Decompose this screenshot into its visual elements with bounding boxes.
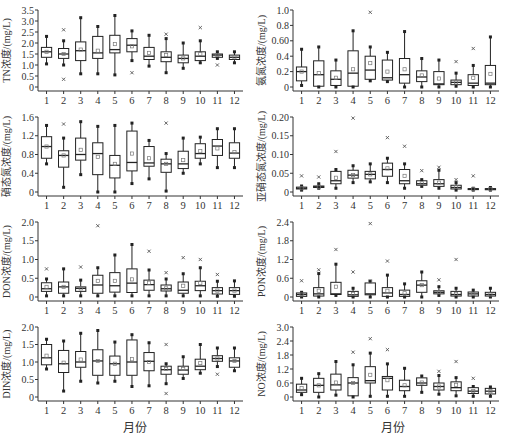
svg-text:0.05: 0.05	[272, 168, 290, 179]
svg-text:11: 11	[212, 405, 222, 416]
svg-text:1.2: 1.2	[22, 130, 35, 141]
svg-text:5: 5	[368, 95, 373, 106]
svg-text:7: 7	[402, 95, 407, 106]
svg-text:10: 10	[195, 95, 206, 106]
svg-text:4: 4	[95, 200, 101, 211]
svg-text:9: 9	[436, 200, 441, 211]
svg-text:3: 3	[78, 200, 83, 211]
svg-text:12: 12	[229, 305, 240, 316]
panel-nitrate-nitrogen: 00.40.81.21.6硝态氮浓度/(mg/L)123456789101112	[0, 107, 255, 212]
svg-text:4: 4	[95, 305, 101, 316]
svg-text:12: 12	[485, 200, 496, 211]
svg-text:1: 1	[44, 305, 49, 316]
svg-text:6: 6	[385, 95, 390, 106]
svg-text:12: 12	[229, 405, 240, 416]
svg-text:8: 8	[164, 405, 169, 416]
svg-text:2.4: 2.4	[277, 217, 290, 228]
svg-text:8: 8	[419, 405, 424, 416]
svg-text:6: 6	[129, 405, 134, 416]
svg-text:1.2: 1.2	[277, 254, 290, 265]
svg-text:10: 10	[451, 305, 462, 316]
svg-text:1: 1	[299, 405, 304, 416]
svg-text:10: 10	[451, 405, 462, 416]
svg-text:1: 1	[299, 95, 304, 106]
panel-don: 00.51.01.52.0DON浓度/(mg/L)123456789101112	[0, 212, 255, 317]
svg-text:6: 6	[129, 305, 134, 316]
svg-text:9: 9	[436, 95, 441, 106]
svg-text:8: 8	[164, 200, 169, 211]
svg-text:3: 3	[78, 95, 83, 106]
svg-text:3: 3	[78, 405, 83, 416]
svg-text:0.8: 0.8	[22, 149, 35, 160]
svg-text:8: 8	[419, 200, 424, 211]
panel-pon: 00.61.21.82.4PON浓度/(mg/L)123456789101112	[255, 212, 511, 317]
x-axis-label-right: 月份	[363, 418, 423, 436]
svg-text:7: 7	[146, 95, 151, 106]
svg-text:亚硝态氮浓度/(mg/L): 亚硝态氮浓度/(mg/L)	[255, 111, 268, 202]
svg-text:NO浓度/(mg/L): NO浓度/(mg/L)	[255, 331, 268, 397]
svg-text:9: 9	[436, 405, 441, 416]
svg-text:3.5: 3.5	[22, 5, 35, 16]
svg-text:0: 0	[29, 187, 34, 198]
svg-text:硝态氮浓度/(mg/L): 硝态氮浓度/(mg/L)	[0, 116, 13, 197]
svg-text:0.20: 0.20	[272, 112, 290, 123]
svg-text:DON浓度/(mg/L): DON浓度/(mg/L)	[0, 225, 13, 298]
boxplot-svg: 00.51.01.52.0DIN浓度/(mg/L)123456789101112	[0, 317, 255, 417]
svg-text:2: 2	[316, 200, 321, 211]
svg-text:PON浓度/(mg/L): PON浓度/(mg/L)	[255, 226, 268, 297]
boxplot-svg: 00.20.40.600.81.0氨氮浓度/(mg/L)123456789101…	[255, 0, 511, 107]
svg-text:5: 5	[368, 200, 373, 211]
svg-text:0: 0	[284, 187, 289, 198]
svg-text:4: 4	[95, 95, 101, 106]
svg-text:7: 7	[146, 305, 151, 316]
svg-text:11: 11	[468, 405, 478, 416]
svg-text:3: 3	[333, 305, 338, 316]
svg-text:2: 2	[61, 305, 66, 316]
x-axis-label-left: 月份	[105, 418, 165, 436]
svg-text:4: 4	[350, 95, 356, 106]
svg-text:9: 9	[181, 405, 186, 416]
svg-text:0: 0	[284, 292, 289, 303]
svg-text:6: 6	[385, 200, 390, 211]
panel-ammonia-nitrogen: 00.20.40.600.81.0氨氮浓度/(mg/L)123456789101…	[255, 0, 511, 107]
svg-text:1.0: 1.0	[22, 357, 35, 368]
svg-text:2: 2	[61, 405, 66, 416]
svg-text:1: 1	[44, 95, 49, 106]
boxplot-svg: 00.51.01.52.0DON浓度/(mg/L)123456789101112	[0, 212, 255, 317]
svg-text:4: 4	[350, 200, 356, 211]
svg-text:0.5: 0.5	[22, 273, 35, 284]
svg-text:3: 3	[333, 200, 338, 211]
svg-text:1: 1	[299, 305, 304, 316]
svg-text:1.5: 1.5	[22, 339, 35, 350]
svg-text:6: 6	[129, 95, 134, 106]
svg-text:TN浓度/(mg/L): TN浓度/(mg/L)	[0, 18, 13, 82]
svg-text:11: 11	[212, 95, 222, 106]
boxplot-figure: 00.51.01.52.02.53.03.5TN浓度/(mg/L)1234567…	[0, 0, 511, 439]
svg-text:2: 2	[316, 95, 321, 106]
svg-text:5: 5	[112, 200, 117, 211]
svg-text:0.60: 0.60	[272, 35, 290, 46]
svg-text:9: 9	[181, 200, 186, 211]
svg-text:2: 2	[316, 305, 321, 316]
svg-text:5: 5	[368, 305, 373, 316]
svg-text:0.4: 0.4	[22, 168, 35, 179]
svg-text:0.6: 0.6	[277, 273, 290, 284]
svg-text:10: 10	[195, 200, 206, 211]
svg-text:8: 8	[419, 95, 424, 106]
boxplot-svg: 00.61.21.82.4PON浓度/(mg/L)123456789101112	[255, 212, 511, 317]
svg-text:1.0: 1.0	[22, 60, 35, 71]
boxplot-svg: 00.61.21.82.43.0NO浓度/(mg/L)1234567891011…	[255, 317, 511, 417]
svg-text:2.0: 2.0	[22, 322, 35, 333]
svg-text:0.6: 0.6	[277, 378, 290, 389]
svg-text:1: 1	[299, 200, 304, 211]
svg-text:0.5: 0.5	[22, 71, 35, 82]
svg-text:6: 6	[385, 405, 390, 416]
svg-text:7: 7	[146, 200, 151, 211]
svg-text:1.0: 1.0	[22, 254, 35, 265]
svg-text:3: 3	[333, 405, 338, 416]
svg-text:10: 10	[451, 200, 462, 211]
svg-text:12: 12	[229, 200, 240, 211]
svg-text:0.4: 0.4	[277, 51, 290, 62]
svg-text:3: 3	[78, 305, 83, 316]
panel-no: 00.61.21.82.43.0NO浓度/(mg/L)1234567891011…	[255, 317, 511, 417]
